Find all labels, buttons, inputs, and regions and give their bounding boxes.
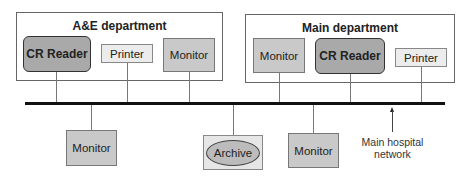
arrow-line <box>392 111 393 132</box>
main-cr-reader: CR Reader <box>315 38 385 74</box>
network-label: Main hospital network <box>355 136 430 160</box>
ae-department-title: A&E department <box>17 19 222 33</box>
connector <box>233 105 234 136</box>
archive-label: Archive <box>206 140 260 166</box>
connector <box>421 67 422 104</box>
main-printer: Printer <box>395 48 447 67</box>
ae-cr-reader: CR Reader <box>23 36 91 72</box>
network-monitor-2: Monitor <box>288 133 339 168</box>
connector <box>189 72 190 103</box>
ae-monitor: Monitor <box>163 38 215 72</box>
connector <box>313 105 314 134</box>
network-label-line1: Main hospital <box>355 136 430 148</box>
connector <box>91 105 92 131</box>
main-monitor: Monitor <box>253 38 305 73</box>
network-label-line2: network <box>355 148 430 160</box>
main-department-title: Main department <box>246 21 454 35</box>
archive-box: Archive <box>203 135 263 170</box>
network-monitor-1: Monitor <box>66 130 117 166</box>
connector <box>56 72 57 103</box>
connector <box>279 73 280 104</box>
network-bus <box>25 102 445 105</box>
connector <box>127 63 128 103</box>
connector <box>350 74 351 104</box>
ae-printer: Printer <box>101 44 153 63</box>
